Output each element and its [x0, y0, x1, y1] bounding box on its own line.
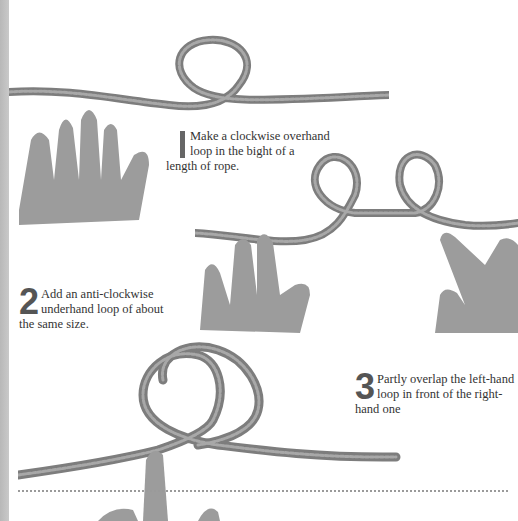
- step1-number: [180, 131, 185, 158]
- section-divider: [18, 490, 508, 492]
- step2-photo: [195, 145, 518, 335]
- step3-number: 3: [355, 373, 375, 401]
- step2-caption: 2 Add an anti-clockwise underhand loop o…: [19, 287, 204, 332]
- page-edge-strip: [0, 0, 9, 521]
- step3-caption: 3 Partly overlap the left-hand loop in f…: [355, 372, 515, 417]
- step2-number: 2: [19, 288, 39, 316]
- step3-photo: [18, 340, 403, 521]
